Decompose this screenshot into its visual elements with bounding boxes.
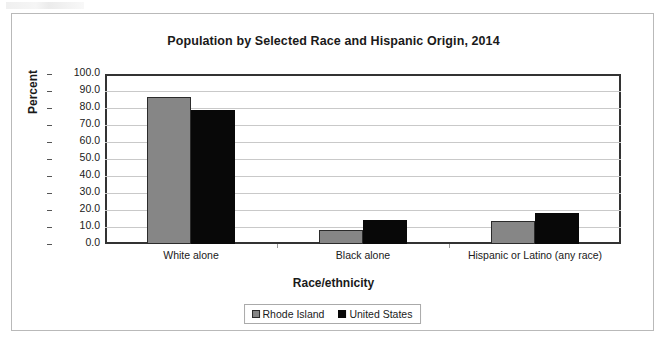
black-square-icon [338,310,346,318]
y-axis-tick-label: 100.0 [52,66,100,79]
y-axis-tick-mark [47,125,52,126]
y-axis-tick-mark [47,176,52,177]
legend-item-united-states[interactable]: United States [338,308,412,320]
bar-black-alone-united-states [363,220,407,244]
y-axis-tick-mark [47,142,52,143]
y-axis-tick-mark [47,244,52,245]
bar-black-alone-rhode-island [319,230,363,244]
plot-wrapper: 100.090.080.070.060.050.040.030.020.010.… [105,74,621,244]
legend-item-label: Rhode Island [263,308,325,320]
y-axis-tick-label: 80.0 [52,100,100,113]
y-axis-tick-mark [47,108,52,109]
bar-white-alone-rhode-island [147,97,191,244]
chart-title: Population by Selected Race and Hispanic… [12,34,655,48]
gray-square-icon [252,310,260,318]
y-axis-tick-label: 60.0 [52,134,100,147]
y-axis-tick-label: 50.0 [52,151,100,164]
x-axis-category-label: White alone [163,249,218,261]
y-axis-tick-label: 40.0 [52,168,100,181]
y-axis-tick-label: 20.0 [52,202,100,215]
y-axis-tick-label: 90.0 [52,83,100,96]
category-separator [277,244,278,248]
x-axis-category-label: Black alone [336,249,390,261]
legend-item-label: United States [349,308,412,320]
y-axis-tick-mark [47,91,52,92]
y-axis-tick-label: 0.0 [52,236,100,249]
y-axis-tick-label: 10.0 [52,219,100,232]
y-axis-tick-mark [47,210,52,211]
y-axis-tick-mark [47,227,52,228]
gridline [105,91,621,92]
bar-white-alone-united-states [191,110,235,244]
category-separator [449,244,450,248]
y-axis-tick-mark [47,74,52,75]
scan-artifact [6,2,84,9]
y-axis-tick-label: 70.0 [52,117,100,130]
x-axis-category-label: Hispanic or Latino (any race) [468,249,602,261]
y-axis-title: Percent [26,70,40,114]
bar-hispanic-or-latino-any-race-rhode-island [491,221,535,244]
x-axis-category-labels: White aloneBlack aloneHispanic or Latino… [105,249,621,267]
legend-item-rhode-island[interactable]: Rhode Island [252,308,325,320]
x-axis-title: Race/ethnicity [12,276,655,290]
chart-legend: Rhode IslandUnited States [244,304,422,324]
y-axis-tick-label: 30.0 [52,185,100,198]
chart-figure-frame: Population by Selected Race and Hispanic… [11,13,654,331]
y-axis-tick-mark [47,193,52,194]
y-axis-tick-mark [47,159,52,160]
bar-hispanic-or-latino-any-race-united-states [535,213,579,244]
